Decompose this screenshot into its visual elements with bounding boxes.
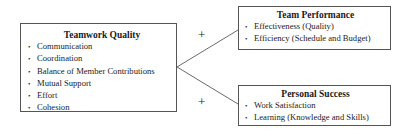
teamwork-quality-list: Communication Coordination Balance of Me… xyxy=(28,41,176,115)
list-item: Learning (Knowledge and Skills) xyxy=(245,112,390,124)
teamwork-quality-title: Teamwork Quality xyxy=(28,30,176,41)
list-item: Cohesion xyxy=(28,102,176,114)
team-performance-title: Team Performance xyxy=(245,10,390,21)
edge-to-personal-success xyxy=(177,67,238,104)
edge-to-team-performance xyxy=(177,30,238,67)
list-item: Balance of Member Contributions xyxy=(28,66,176,78)
list-item: Effort xyxy=(28,90,176,102)
team-performance-list: Effectiveness (Quality) Efficiency (Sche… xyxy=(245,21,390,46)
personal-success-title: Personal Success xyxy=(245,89,390,100)
list-item: Communication xyxy=(28,41,176,53)
personal-success-list: Work Satisfaction Learning (Knowledge an… xyxy=(245,100,390,125)
list-item: Effectiveness (Quality) xyxy=(245,21,390,33)
positive-sign-team-performance: + xyxy=(198,28,205,41)
list-item: Efficiency (Schedule and Budget) xyxy=(245,33,390,45)
list-item: Mutual Support xyxy=(28,78,176,90)
team-performance-box: Team Performance Effectiveness (Quality)… xyxy=(238,6,391,50)
teamwork-quality-box: Teamwork Quality Communication Coordinat… xyxy=(20,23,177,112)
list-item: Coordination xyxy=(28,53,176,65)
personal-success-box: Personal Success Work Satisfaction Learn… xyxy=(238,85,391,126)
list-item: Work Satisfaction xyxy=(245,100,390,112)
positive-sign-personal-success: + xyxy=(198,95,205,108)
